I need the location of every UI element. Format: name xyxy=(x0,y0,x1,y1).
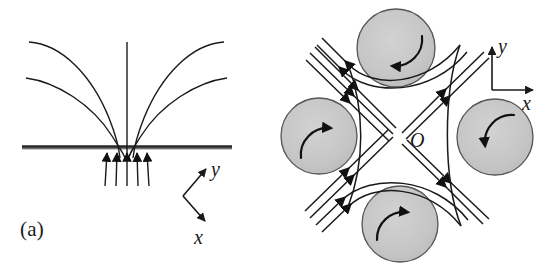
y-axis-label: y xyxy=(496,35,507,58)
x-axis-label: x xyxy=(193,226,203,248)
panel-a-caption: (a) xyxy=(20,217,44,242)
flow-arrow-1 xyxy=(105,153,107,186)
field-line-1 xyxy=(29,42,120,158)
y-axis-label: y xyxy=(209,158,220,181)
field-line-group xyxy=(26,42,227,160)
x-axis-arrow xyxy=(183,196,205,221)
flow-arrow-2 xyxy=(116,153,117,186)
panel-b: O y x (b) xyxy=(277,0,554,267)
x-axis-label: x xyxy=(521,92,531,114)
cylinder-bottom xyxy=(362,186,438,262)
flow-arrow-4 xyxy=(137,153,138,186)
flow-arrow-group xyxy=(105,153,149,186)
flow-arrow-5 xyxy=(147,153,149,186)
axes-panel-a: y x xyxy=(183,158,220,248)
figure-container: y x (a) xyxy=(0,0,554,267)
cylinder-left xyxy=(281,98,357,174)
field-line-5 xyxy=(133,42,224,158)
cylinder-top xyxy=(357,9,435,87)
panel-a: y x (a) xyxy=(0,0,277,267)
origin-label: O xyxy=(410,129,424,151)
y-axis-arrow xyxy=(183,169,206,196)
